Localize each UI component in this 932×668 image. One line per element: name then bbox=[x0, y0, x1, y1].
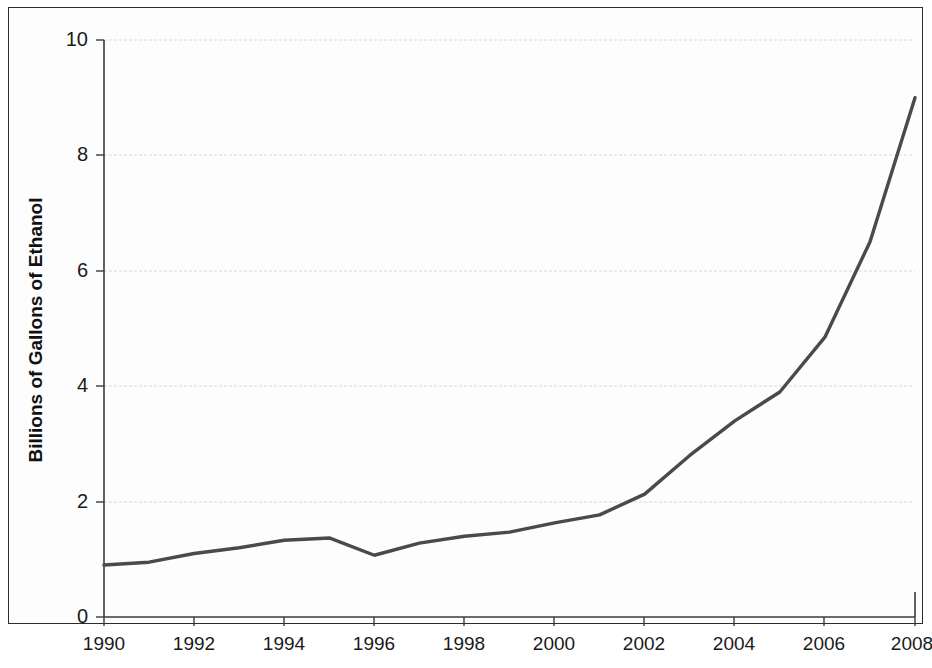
gridlines bbox=[104, 40, 915, 502]
x-tick-label-1998: 1998 bbox=[443, 633, 485, 654]
x-tick-label-2002: 2002 bbox=[623, 633, 665, 654]
x-tick-labels: 1990 1992 1994 1996 1998 2000 2002 2004 … bbox=[83, 633, 932, 654]
x-tick-label-2008: 2008 bbox=[891, 633, 932, 654]
y-tick-label-4: 4 bbox=[77, 374, 88, 396]
x-tick-label-1996: 1996 bbox=[353, 633, 395, 654]
y-tick-label-0: 0 bbox=[77, 605, 88, 627]
x-tick-label-2006: 2006 bbox=[803, 633, 845, 654]
y-tick-label-2: 2 bbox=[77, 490, 88, 512]
y-tickmarks bbox=[96, 40, 104, 617]
x-tick-label-1992: 1992 bbox=[173, 633, 215, 654]
x-tick-label-1994: 1994 bbox=[263, 633, 306, 654]
y-tick-label-8: 8 bbox=[77, 143, 88, 165]
line-chart: 10 8 6 4 2 0 1990 1992 1994 1996 1998 20… bbox=[0, 0, 932, 668]
x-tick-label-1990: 1990 bbox=[83, 633, 125, 654]
x-tick-label-2004: 2004 bbox=[713, 633, 756, 654]
y-tick-label-6: 6 bbox=[77, 259, 88, 281]
chart-figure: 10 8 6 4 2 0 1990 1992 1994 1996 1998 20… bbox=[0, 0, 932, 668]
y-tick-label-10: 10 bbox=[66, 28, 88, 50]
y-tick-labels: 10 8 6 4 2 0 bbox=[66, 28, 88, 627]
data-series-line bbox=[104, 98, 915, 565]
x-tickmarks bbox=[104, 617, 915, 626]
y-axis-title: Billions of Gallons of Ethanol bbox=[25, 198, 46, 463]
x-tick-label-2000: 2000 bbox=[533, 633, 575, 654]
